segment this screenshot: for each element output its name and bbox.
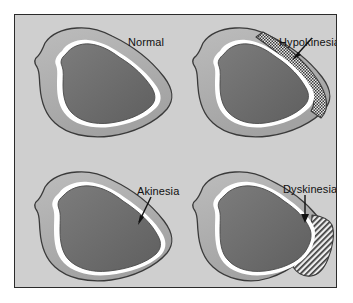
hearts-illustration [15,15,337,288]
panel-label-hypokinesia: Hypokinesia [279,36,337,48]
figure-root: Normal Hypokinesia Akinesia Dyskinesia [0,0,353,303]
panel-label-akinesia: Akinesia [137,185,179,197]
panel-label-dyskinesia: Dyskinesia [283,183,337,195]
panel-label-normal: Normal [128,36,164,48]
akin-cavity [58,186,160,272]
figure-frame: Normal Hypokinesia Akinesia Dyskinesia [14,14,337,288]
